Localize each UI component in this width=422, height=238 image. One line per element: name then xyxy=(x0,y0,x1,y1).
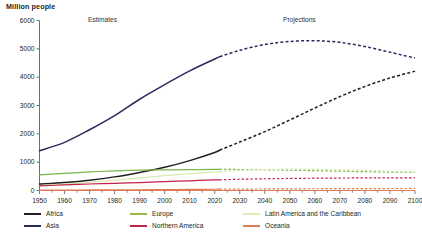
series-lines xyxy=(40,41,416,190)
legend-row: Asia Northern America Oceania xyxy=(0,219,422,232)
svg-text:1960: 1960 xyxy=(57,197,72,204)
svg-text:2090: 2090 xyxy=(383,197,398,204)
legend-label: Northern America xyxy=(152,219,203,232)
svg-text:1000: 1000 xyxy=(20,158,35,165)
legend-swatch-northern-america xyxy=(130,225,147,227)
legend-swatch-africa xyxy=(24,213,41,215)
legend-swatch-oceania xyxy=(243,225,260,227)
svg-text:1980: 1980 xyxy=(107,197,122,204)
legend-swatch-latin-america xyxy=(243,213,260,215)
y-axis: 0100020003000400050006000 xyxy=(20,17,40,194)
svg-text:2000: 2000 xyxy=(157,197,172,204)
x-axis: 1950196019701980199020002010202020302040… xyxy=(32,191,422,204)
svg-text:1990: 1990 xyxy=(132,197,147,204)
svg-text:2040: 2040 xyxy=(257,197,272,204)
svg-text:2010: 2010 xyxy=(182,197,197,204)
legend-item-northern-america[interactable]: Northern America xyxy=(130,219,203,232)
svg-text:2050: 2050 xyxy=(282,197,297,204)
svg-text:2030: 2030 xyxy=(232,197,247,204)
svg-text:4000: 4000 xyxy=(20,73,35,80)
svg-text:0: 0 xyxy=(31,187,35,194)
svg-text:2080: 2080 xyxy=(358,197,373,204)
legend-item-asia[interactable]: Asia xyxy=(24,219,59,232)
svg-text:1950: 1950 xyxy=(32,197,47,204)
svg-text:3000: 3000 xyxy=(20,102,35,109)
svg-text:5000: 5000 xyxy=(20,45,35,52)
legend-swatch-europe xyxy=(130,213,147,215)
svg-text:2100: 2100 xyxy=(408,197,422,204)
legend-swatch-asia xyxy=(24,225,41,227)
legend-item-oceania[interactable]: Oceania xyxy=(243,219,290,232)
svg-text:2020: 2020 xyxy=(207,197,222,204)
svg-text:6000: 6000 xyxy=(20,17,35,24)
legend-label: Oceania xyxy=(265,219,290,232)
plot-area: 0100020003000400050006000 19501960197019… xyxy=(0,0,422,238)
legend-label: Asia xyxy=(46,219,59,232)
svg-text:1970: 1970 xyxy=(82,197,97,204)
svg-text:2060: 2060 xyxy=(308,197,323,204)
chart-legend: Africa Europe Latin America and the Cari… xyxy=(0,206,422,238)
population-line-chart: Million people Estimates Projections 010… xyxy=(0,0,422,238)
svg-text:2070: 2070 xyxy=(333,197,348,204)
svg-text:2000: 2000 xyxy=(20,130,35,137)
